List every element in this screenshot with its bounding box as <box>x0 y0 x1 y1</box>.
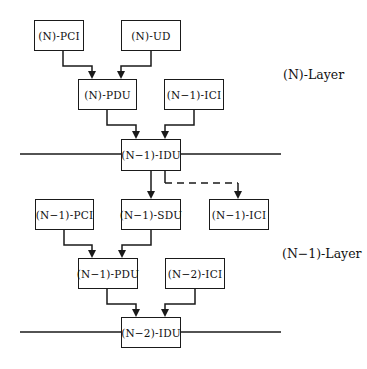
pdu-layer-diagram: (N)-PCI (N)-UD (N)-PDU (N−1)-ICI (N−1)-I… <box>0 0 367 369</box>
n-pdu-box: (N)-PDU <box>78 79 137 110</box>
n1-pci-box: (N−1)-PCI <box>35 199 94 230</box>
n-pci-box: (N)-PCI <box>34 20 84 51</box>
n1-ici-bottom-box: (N−1)-ICI <box>209 199 269 230</box>
n-ud-box: (N)-UD <box>121 20 181 51</box>
n1-idu-box: (N−1)-IDU <box>121 139 181 171</box>
n1-layer-label: (N−1)-Layer <box>282 246 362 261</box>
n-layer-label: (N)-Layer <box>283 67 344 82</box>
n1-sdu-box: (N−1)-SDU <box>121 199 181 230</box>
n2-idu-box: (N−2)-IDU <box>121 317 181 348</box>
n1-pdu-box: (N−1)-PDU <box>78 258 138 289</box>
n2-ici-box: (N−2)-ICI <box>165 258 225 289</box>
n1-ici-top-box: (N−1)-ICI <box>164 79 224 110</box>
connector-lines <box>0 0 367 369</box>
